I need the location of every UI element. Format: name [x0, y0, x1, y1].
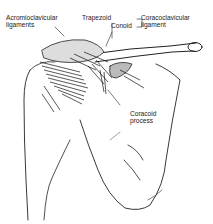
label-acromioclavicular-ligaments: Acromioclavicular ligaments	[6, 14, 58, 29]
anatomy-figure: Acromioclavicular ligaments Trapezoid Co…	[0, 0, 213, 224]
label-coracoclavicular-ligament: Coracoclavicular ligament	[141, 14, 190, 29]
label-trapezoid: Trapezoid	[82, 14, 111, 21]
shoulder-illustration	[0, 0, 213, 224]
label-coracoid-process: Coracoid process	[130, 110, 156, 125]
label-conoid: Conoid	[111, 22, 132, 29]
